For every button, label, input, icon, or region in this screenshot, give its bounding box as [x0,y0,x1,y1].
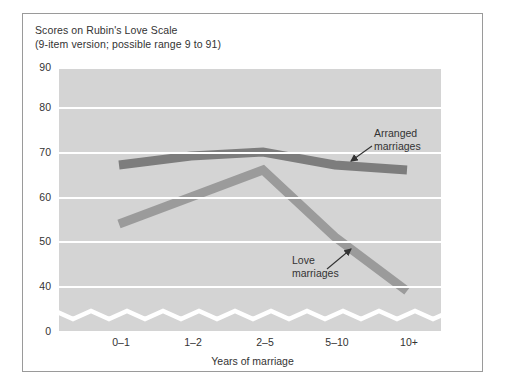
love-annotation-line-2: marriages [292,267,339,280]
y-tick-label-40: 40 [21,280,51,292]
love-marriages-annotation: Love marriages [292,254,339,279]
chart-title-line-2: (9-item version; possible range 9 to 91) [35,38,221,52]
y-tick-label-90: 90 [21,61,51,73]
y-tick-label-0: 0 [21,325,51,337]
x-tick-label-1-2: 1–2 [163,336,223,348]
arranged-marriages-annotation: Arranged marriages [374,127,421,152]
chart-title-line-1: Scores on Rubin's Love Scale [35,24,221,38]
chart-title: Scores on Rubin's Love Scale (9-item ver… [35,24,221,51]
y-tick-label-70: 70 [21,146,51,158]
plot-area [59,67,441,331]
arranged-annotation-arrow [351,146,372,161]
x-tick-label-2-5: 2–5 [235,336,295,348]
x-tick-label-5-10: 5–10 [307,336,367,348]
love-annotation-line-1: Love [292,254,339,267]
y-axis-break-zigzag [59,289,441,331]
chart-figure: Scores on Rubin's Love Scale (9-item ver… [22,13,483,372]
x-tick-label-0-1: 0–1 [91,336,151,348]
x-tick-label-10plus: 10+ [379,336,439,348]
y-tick-label-60: 60 [21,191,51,203]
arranged-annotation-line-1: Arranged [374,127,421,140]
y-tick-label-80: 80 [21,101,51,113]
zigzag-shape [59,289,441,331]
x-axis-label: Years of marriage [23,355,482,367]
y-tick-label-50: 50 [21,235,51,247]
arranged-annotation-line-2: marriages [374,140,421,153]
